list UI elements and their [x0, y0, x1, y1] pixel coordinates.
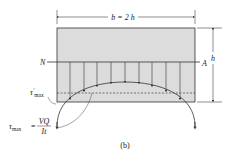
- svg-text:It: It: [41, 127, 48, 136]
- height-label: h: [211, 54, 215, 63]
- neutral-axis-label-n: N: [39, 58, 46, 67]
- svg-text:VQ: VQ: [39, 117, 50, 126]
- svg-text:τmax: τmax: [9, 122, 22, 132]
- figure-caption: (b): [120, 141, 130, 150]
- neutral-axis-label-a: A: [201, 59, 207, 68]
- cross-section: [57, 28, 195, 102]
- svg-text:=: =: [31, 122, 36, 131]
- width-label: b = 2 h: [111, 13, 134, 22]
- shear-stress-diagram: b = 2 h N A h τ′max τmax = VQ: [0, 0, 232, 159]
- svg-text:τ′max: τ′max: [30, 87, 44, 98]
- tau-prime-max-label: τ′max: [30, 87, 56, 104]
- width-dimension: b = 2 h: [57, 10, 195, 24]
- height-dimension: h: [197, 28, 222, 102]
